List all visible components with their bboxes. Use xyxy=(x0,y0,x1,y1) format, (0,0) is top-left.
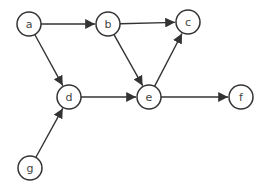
node-label: a xyxy=(26,18,33,31)
edge-e-to-c xyxy=(155,34,182,87)
node-label: c xyxy=(185,16,191,29)
node-label: g xyxy=(27,162,34,175)
node-e: e xyxy=(137,85,161,109)
node-f: f xyxy=(229,85,253,109)
edge-b-to-e xyxy=(114,34,143,85)
node-label: b xyxy=(105,18,112,31)
edge-b-to-c xyxy=(120,22,175,23)
node-g: g xyxy=(18,156,42,180)
edge-a-to-d xyxy=(35,35,63,86)
node-b: b xyxy=(96,12,120,36)
edge-g-to-d xyxy=(36,108,63,157)
node-c: c xyxy=(176,10,200,34)
node-label: d xyxy=(66,91,73,104)
node-a: a xyxy=(17,12,41,36)
directed-graph: abcdefg xyxy=(0,0,269,190)
node-d: d xyxy=(57,85,81,109)
nodes-layer: abcdefg xyxy=(17,10,253,180)
node-label: e xyxy=(146,91,153,104)
